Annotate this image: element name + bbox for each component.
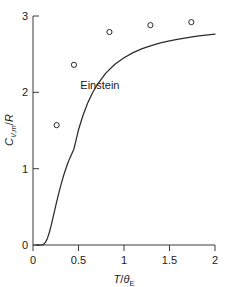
x-axis-title-denominator-sub: E bbox=[129, 279, 134, 287]
x-axis-ticks: 0 0.5 1 1.5 2 bbox=[30, 245, 218, 266]
experimental-data-points bbox=[54, 20, 194, 128]
x-tick-label-0p5: 0.5 bbox=[71, 254, 86, 266]
y-axis-title-symbol-sub: V,m bbox=[9, 125, 18, 138]
data-point bbox=[107, 29, 112, 34]
chart-canvas: 0 1 2 3 0 0.5 1 1.5 2 Einstein T/θE bbox=[0, 0, 227, 287]
y-tick-label-2: 2 bbox=[22, 86, 28, 98]
einstein-model-curve bbox=[37, 34, 215, 245]
data-point bbox=[71, 62, 76, 67]
data-point bbox=[54, 123, 59, 128]
x-tick-label-1: 1 bbox=[121, 254, 127, 266]
x-tick-label-2: 2 bbox=[212, 254, 218, 266]
x-tick-label-0: 0 bbox=[30, 254, 36, 266]
einstein-curve-label: Einstein bbox=[80, 79, 119, 91]
y-tick-label-3: 3 bbox=[22, 10, 28, 22]
y-axis-ticks: 0 1 2 3 bbox=[22, 10, 39, 251]
axes-group bbox=[33, 16, 215, 245]
y-tick-label-1: 1 bbox=[22, 163, 28, 175]
x-axis-title: T/θE bbox=[114, 273, 135, 287]
x-tick-label-1p5: 1.5 bbox=[162, 254, 177, 266]
data-point bbox=[148, 23, 153, 28]
y-tick-label-0: 0 bbox=[22, 239, 28, 251]
svg-text:CV,m/R: CV,m/R bbox=[3, 114, 18, 146]
y-axis-title-symbol: C bbox=[3, 138, 15, 146]
svg-text:T/θE: T/θE bbox=[114, 273, 135, 287]
y-axis-title: CV,m/R bbox=[3, 114, 18, 146]
data-point bbox=[189, 20, 194, 25]
y-axis-title-denominator: R bbox=[3, 114, 15, 122]
einstein-heat-capacity-figure: 0 1 2 3 0 0.5 1 1.5 2 Einstein T/θE bbox=[0, 0, 227, 287]
